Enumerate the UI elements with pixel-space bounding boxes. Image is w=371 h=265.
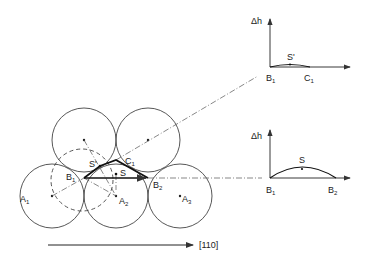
upper-point-label: S' xyxy=(287,52,295,62)
atom-circles xyxy=(20,108,212,228)
lower-x-start: B1 xyxy=(266,185,276,196)
label-s-prime: S' xyxy=(89,159,97,169)
lower-x-end: B2 xyxy=(328,185,338,196)
label-a1: A1 xyxy=(20,194,30,205)
label-a3: A3 xyxy=(182,194,192,205)
label-a2: A2 xyxy=(119,196,129,207)
upper-x-end: C1 xyxy=(304,73,315,84)
guide-lines xyxy=(52,76,262,196)
direction-label: [110] xyxy=(199,240,218,250)
dashed-atom xyxy=(51,149,113,211)
lower-point-label: S xyxy=(299,155,305,165)
label-b2: B2 xyxy=(153,180,163,191)
atomic-packing-diagram: A1 A2 A3 B1 B2 C1 S S' [110] Δh S' B1 C1… xyxy=(0,0,371,265)
label-c1: C1 xyxy=(125,156,136,167)
upper-graph: Δh S' B1 C1 xyxy=(251,16,350,84)
upper-x-start: B1 xyxy=(266,73,276,84)
label-s: S xyxy=(120,168,126,178)
lower-y-axis-label: Δh xyxy=(251,131,262,141)
upper-y-axis-label: Δh xyxy=(251,16,262,26)
lower-graph: Δh S B1 B2 xyxy=(251,130,350,196)
